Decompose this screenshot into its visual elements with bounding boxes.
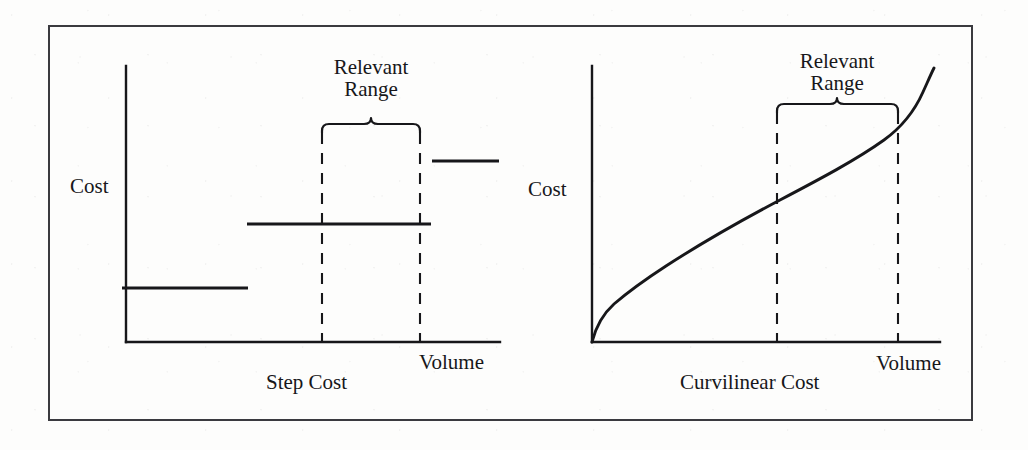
- curvilinear-cost-curve: [592, 68, 934, 342]
- curvilinear-cost-relevant-range-brace: [777, 98, 898, 113]
- curvilinear-cost-x-axis-label: Volume: [876, 352, 941, 374]
- curvilinear-cost-panel-caption: Curvilinear Cost: [680, 371, 819, 393]
- figure-page: Cost Volume Relevant Range Step Cost Cos…: [0, 0, 1028, 450]
- curvilinear-cost-y-axis-label: Cost: [528, 178, 567, 200]
- curvilinear-cost-relevant-range-line1: Relevant: [784, 50, 890, 72]
- curvilinear-cost-relevant-range-line2: Range: [784, 72, 890, 94]
- curvilinear-cost-relevant-range-annotation: Relevant Range: [784, 50, 890, 95]
